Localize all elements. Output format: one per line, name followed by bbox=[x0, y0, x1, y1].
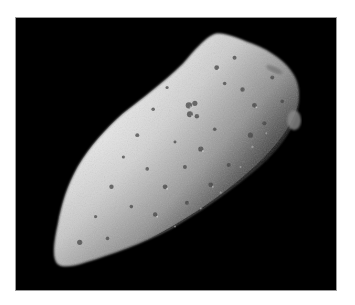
asteroid-photo bbox=[16, 18, 336, 290]
asteroid-photo-frame: Grayscale photograph of a cratered, elon… bbox=[15, 17, 337, 291]
asteroid-body bbox=[16, 18, 336, 290]
